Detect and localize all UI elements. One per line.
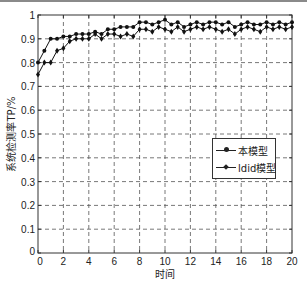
svg-text:0.1: 0.1 xyxy=(21,224,35,235)
svg-text:0.2: 0.2 xyxy=(21,200,35,211)
grid-lines xyxy=(38,15,292,253)
svg-text:0.8: 0.8 xyxy=(21,58,35,69)
svg-text:14: 14 xyxy=(210,256,222,267)
svg-text:0.6: 0.6 xyxy=(21,105,35,116)
svg-text:0: 0 xyxy=(37,256,43,267)
legend-label: ldid模型 xyxy=(238,160,276,175)
svg-text:10: 10 xyxy=(159,256,171,267)
svg-text:0.9: 0.9 xyxy=(21,34,35,45)
svg-text:8: 8 xyxy=(137,256,143,267)
svg-text:6: 6 xyxy=(111,256,117,267)
x-axis-label: 时间 xyxy=(155,268,175,280)
svg-text:18: 18 xyxy=(261,256,273,267)
diamond-marker-icon xyxy=(223,164,229,170)
dot-marker-icon xyxy=(224,147,229,152)
svg-text:0.7: 0.7 xyxy=(21,81,35,92)
svg-text:16: 16 xyxy=(236,256,248,267)
legend: 本模型 ldid模型 xyxy=(212,138,276,179)
y-axis-label: 系统检测率TP/% xyxy=(5,96,17,171)
svg-text:4: 4 xyxy=(86,256,92,267)
legend-item-ldid-model: ldid模型 xyxy=(216,159,274,175)
svg-text:0.3: 0.3 xyxy=(21,177,35,188)
svg-text:2: 2 xyxy=(61,256,67,267)
svg-text:1: 1 xyxy=(29,10,35,21)
svg-text:0.4: 0.4 xyxy=(21,153,35,164)
legend-item-this-model: 本模型 xyxy=(216,142,274,158)
svg-text:12: 12 xyxy=(185,256,197,267)
svg-text:20: 20 xyxy=(286,256,298,267)
svg-text:0: 0 xyxy=(29,246,35,257)
legend-label: 本模型 xyxy=(238,143,268,158)
data-series xyxy=(36,18,294,78)
svg-text:0.5: 0.5 xyxy=(21,129,35,140)
y-axis-ticks: 00.10.20.30.40.50.60.70.80.91 xyxy=(21,10,292,257)
